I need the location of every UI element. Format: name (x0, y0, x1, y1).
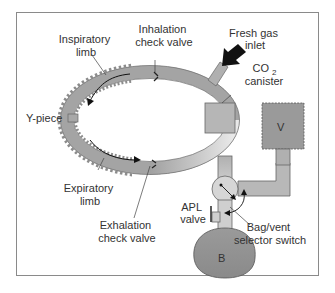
co2-canister (205, 103, 235, 133)
y-piece-label: Y-piece (26, 112, 62, 124)
ventilator-label: V (277, 121, 285, 133)
exhalation-check-valve-label: Exhalation check valve (98, 219, 155, 244)
circle-system-diagram: B V (0, 0, 335, 293)
y-piece (68, 114, 78, 122)
bag-label: B (218, 252, 225, 264)
apl-valve-label: APL valve (180, 201, 206, 225)
inhalation-check-valve-label: Inhalation check valve (135, 23, 192, 48)
